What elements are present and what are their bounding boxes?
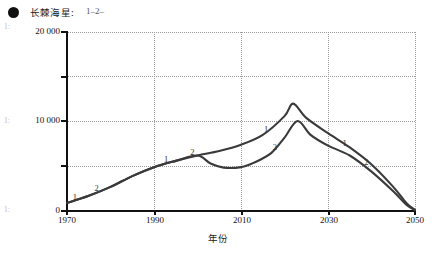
series-point-label-2-3: 2 <box>190 148 194 157</box>
series-point-label-1-2: 1 <box>164 155 168 164</box>
series-point-label-2-1: 2 <box>94 184 98 193</box>
chart-root: 长棘海星: 1–2– 1: 1: 1: 20 000 10 000 0 1970… <box>0 0 436 253</box>
series-point-label-1-0: 1 <box>73 193 77 202</box>
series-1-line <box>67 104 415 211</box>
series-point-label-2-5: 2 <box>273 143 277 152</box>
series-canvas <box>0 0 436 253</box>
series-point-label-1-4: 1 <box>264 125 268 134</box>
series-2-line <box>67 121 415 210</box>
series-point-label-1-6: 1 <box>342 139 346 148</box>
series-point-label-2-7: 2 <box>364 158 368 167</box>
